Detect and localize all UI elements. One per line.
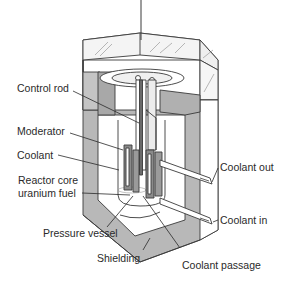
label-coolant-out: Coolant out: [220, 161, 274, 173]
reactor-diagram: [0, 0, 292, 285]
label-coolant: Coolant: [17, 149, 53, 161]
label-control-rod: Control rod: [17, 82, 69, 94]
label-reactor-core-line1: Reactor core: [18, 174, 78, 186]
label-coolant-in: Coolant in: [220, 214, 267, 226]
label-coolant-passage: Coolant passage: [182, 259, 261, 271]
label-reactor-core-line2: uranium fuel: [18, 187, 76, 199]
label-pressure-vessel: Pressure vessel: [43, 227, 118, 239]
label-moderator: Moderator: [17, 125, 65, 137]
control-rod-assembly: [136, 0, 156, 175]
label-shielding: Shielding: [97, 252, 140, 264]
